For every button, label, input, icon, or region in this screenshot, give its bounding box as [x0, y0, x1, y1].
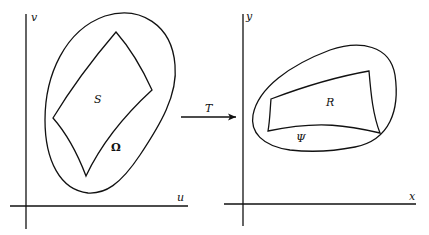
s-region-boundary [53, 32, 152, 176]
y-axis-label: y [245, 10, 253, 23]
u-axis-label: u [177, 191, 184, 204]
transformation-diagram: v u S Ω T y x R Ψ [0, 0, 429, 235]
mapping-label: T [205, 102, 214, 115]
s-label: S [94, 93, 102, 106]
x-axis-label: x [409, 190, 416, 203]
omega-region-boundary [45, 13, 175, 193]
r-label: R [325, 96, 334, 109]
psi-label: Ψ [296, 132, 306, 145]
v-axis-label: v [31, 11, 38, 24]
r-region-boundary [268, 71, 380, 133]
omega-label: Ω [111, 141, 121, 154]
